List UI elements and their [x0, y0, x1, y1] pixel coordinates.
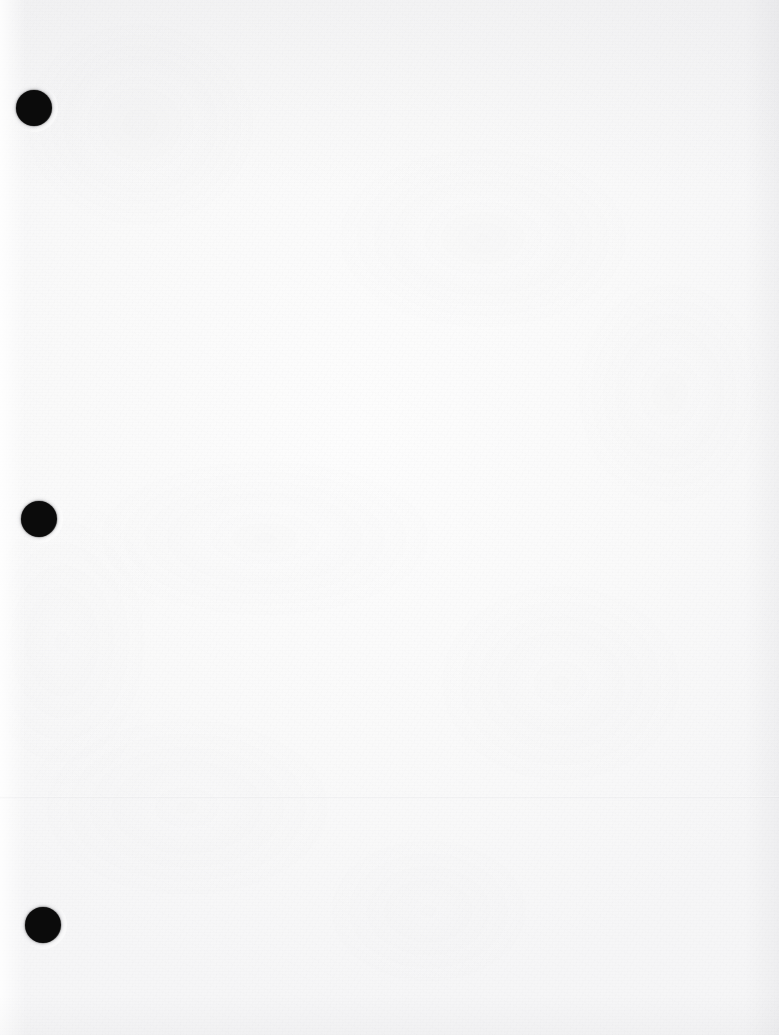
paper-grain-texture: [0, 0, 779, 1035]
bottom-edge-shading: [0, 995, 779, 1035]
paper-mottle-texture: [0, 0, 779, 1035]
right-edge-shading: [745, 0, 779, 1035]
horizontal-crease: [0, 796, 779, 799]
punch-hole-middle: [21, 501, 57, 537]
punch-hole-top: [16, 90, 52, 126]
scanned-page: [0, 0, 779, 1035]
top-edge-shading: [0, 0, 779, 190]
punch-hole-bottom: [25, 907, 61, 943]
